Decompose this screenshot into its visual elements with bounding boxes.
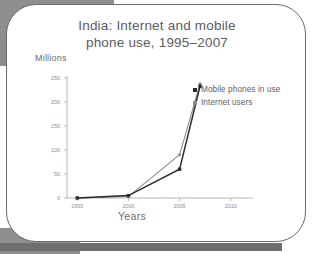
y-axis-tick-label: 50: [38, 171, 60, 177]
y-axis-tick-label: 100: [38, 147, 60, 153]
legend-label-internet: Internet users: [201, 98, 252, 107]
x-axis-tick-label: 2000: [114, 203, 142, 209]
x-axis-tick-label: 2010: [217, 203, 245, 209]
legend-item-internet: Internet users: [193, 96, 280, 109]
x-axis-label: Years: [7, 210, 257, 222]
legend-swatch-internet-icon: [193, 101, 197, 105]
x-axis-tick-label: 2005: [166, 203, 194, 209]
legend-label-mobile: Mobile phones in use: [201, 85, 280, 94]
legend-swatch-mobile-icon: [193, 88, 197, 92]
slide-card: India: Internet and mobile phone use, 19…: [6, 4, 306, 242]
y-axis-tick-label: 0: [38, 195, 60, 201]
shadow-bottom-bar: [0, 243, 282, 251]
x-axis-tick-label: 1995: [63, 203, 91, 209]
chart-plot-area: 0501001502002501995200020052010: [7, 5, 306, 242]
chart-legend: Mobile phones in use Internet users: [193, 83, 280, 109]
legend-item-mobile: Mobile phones in use: [193, 83, 280, 96]
y-axis-tick-label: 150: [38, 123, 60, 129]
y-axis-tick-label: 200: [38, 99, 60, 105]
y-axis-tick-label: 250: [38, 75, 60, 81]
